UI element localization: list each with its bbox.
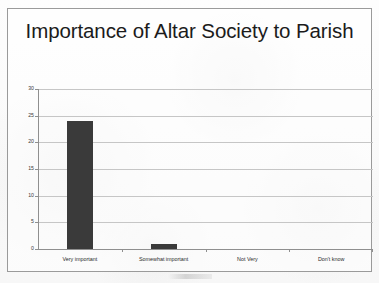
y-tick-mark xyxy=(35,196,38,197)
x-tick-label: Somewhat important xyxy=(139,257,188,262)
y-tick-mark xyxy=(35,222,38,223)
y-tick-label: 0 xyxy=(31,246,34,251)
x-tick-label: Very important xyxy=(62,257,97,262)
chart-frame: Importance of Altar Society to Parish 05… xyxy=(7,8,372,272)
y-tick-label: 15 xyxy=(28,166,34,171)
x-tick-mark xyxy=(289,249,290,252)
x-tick-label: Don't know xyxy=(318,257,345,262)
x-tick-mark xyxy=(122,249,123,252)
bar xyxy=(151,244,177,249)
gridline xyxy=(38,89,373,90)
y-tick-mark xyxy=(35,89,38,90)
y-tick-label: 10 xyxy=(28,193,34,198)
x-tick-mark xyxy=(206,249,207,252)
y-tick-label: 30 xyxy=(28,86,34,91)
chart-title: Importance of Altar Society to Parish xyxy=(8,19,371,43)
y-tick-label: 5 xyxy=(31,220,34,225)
y-tick-mark xyxy=(35,169,38,170)
y-axis-line xyxy=(38,89,39,249)
y-tick-label: 20 xyxy=(28,140,34,145)
y-tick-mark xyxy=(35,249,38,250)
y-tick-label: 25 xyxy=(28,113,34,118)
y-tick-mark xyxy=(35,142,38,143)
plot-area: 051015202530 Very importantSomewhat impo… xyxy=(38,81,373,249)
x-tick-label: Not Very xyxy=(237,257,258,262)
bar xyxy=(67,121,93,249)
scan-artifact xyxy=(168,274,212,279)
x-tick-mark xyxy=(372,249,373,252)
gridline xyxy=(38,116,373,117)
y-tick-mark xyxy=(35,116,38,117)
